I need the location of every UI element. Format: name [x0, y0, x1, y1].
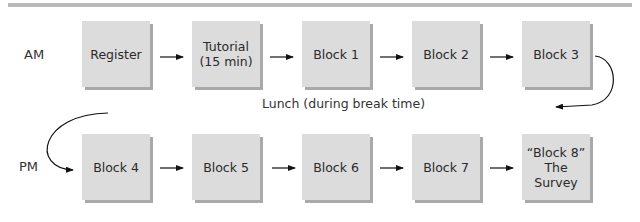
arrows-layer	[0, 0, 640, 222]
curved-arrow-icon	[47, 113, 108, 170]
curved-arrow-icon	[556, 56, 613, 107]
